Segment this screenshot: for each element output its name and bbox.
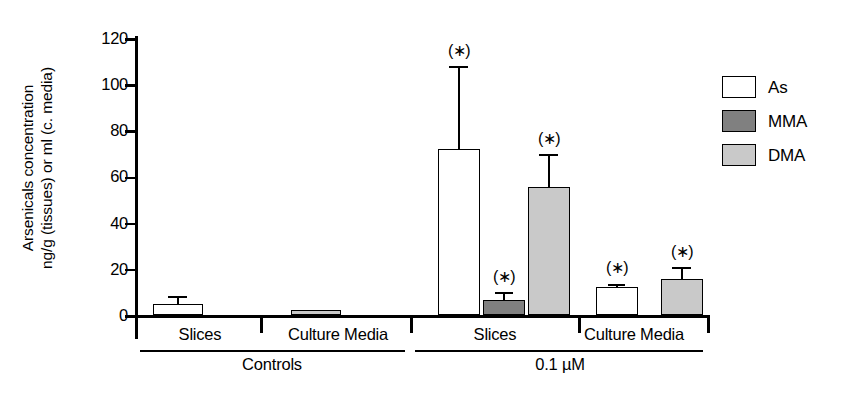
bar-treated-media-dma <box>661 279 703 315</box>
y-tick-label-0: 0 <box>82 307 128 324</box>
x-label-treated-slices: Slices <box>474 326 517 343</box>
y-tick-mark-40 <box>125 223 135 226</box>
x-label-controls-culture-media: Culture Media <box>288 326 388 343</box>
y-tick-label-20: 20 <box>82 261 128 278</box>
y-axis-line <box>135 36 138 339</box>
bar-treated-slices-mma <box>483 300 525 315</box>
group-label-dose: 0.1 µM <box>535 356 585 373</box>
legend-swatch-dma-icon <box>722 144 756 166</box>
y-tick-mark-60 <box>125 177 135 180</box>
axis-separator-ctrl-mid <box>260 317 263 333</box>
errorcap-treated-media-as <box>608 284 625 286</box>
axis-separator-left <box>135 317 138 333</box>
errorcap-treated-media-dma <box>672 267 691 269</box>
bar-controls-media-dma <box>291 310 341 315</box>
significance-marker-treated-slices-mma: (∗) <box>493 269 515 285</box>
group-label-controls: Controls <box>242 356 302 373</box>
y-tick-mark-0 <box>125 315 135 318</box>
errorcap-treated-slices-as <box>449 66 468 68</box>
bar-controls-slices-as <box>153 304 203 316</box>
y-tick-mark-120 <box>125 38 135 41</box>
errorcap-treated-slices-mma <box>495 292 513 294</box>
y-tick-label-60: 60 <box>82 168 128 185</box>
y-tick-mark-80 <box>125 130 135 133</box>
significance-marker-treated-slices-as: (∗) <box>448 43 470 59</box>
y-tick-label-100: 100 <box>82 76 128 93</box>
axis-separator-right <box>707 317 710 333</box>
legend-label-as: As <box>768 79 787 96</box>
group-underline-dose <box>415 350 703 352</box>
x-axis-line <box>135 315 710 318</box>
legend-item-mma: MMA <box>722 106 842 136</box>
y-tick-label-80: 80 <box>82 122 128 139</box>
significance-marker-treated-media-as: (∗) <box>606 260 628 276</box>
chart-legend: As MMA DMA <box>722 72 842 174</box>
bar-chart-figure: Arsenicals concentration ng/g (tissues) … <box>0 0 849 398</box>
y-tick-label-120: 120 <box>82 30 128 47</box>
y-tick-mark-20 <box>125 269 135 272</box>
bar-treated-media-as <box>596 287 638 315</box>
y-tick-mark-100 <box>125 84 135 87</box>
bar-treated-slices-dma <box>528 187 570 315</box>
y-axis-tick-labels: 120 100 80 60 40 20 0 <box>82 0 128 398</box>
legend-label-dma: DMA <box>768 147 805 164</box>
errorbar-treated-slices-as <box>458 68 460 149</box>
group-underline-controls <box>140 350 405 352</box>
legend-item-as: As <box>722 72 842 102</box>
y-axis-title-line-1: Arsenicals concentration <box>18 18 37 318</box>
errorcap-controls-slices-as <box>168 296 187 298</box>
y-axis-title-line-2: ng/g (tissues) or ml (c. media) <box>37 18 56 318</box>
legend-label-mma: MMA <box>768 113 807 130</box>
x-label-treated-culture-media: Culture Media <box>584 326 684 343</box>
errorbar-controls-slices-as <box>177 297 179 304</box>
legend-swatch-as-icon <box>722 76 756 98</box>
legend-swatch-mma-icon <box>722 110 756 132</box>
y-tick-label-40: 40 <box>82 215 128 232</box>
significance-marker-treated-slices-dma: (∗) <box>538 131 560 147</box>
significance-marker-treated-media-dma: (∗) <box>671 244 693 260</box>
errorbar-treated-media-dma <box>681 269 683 279</box>
errorbar-treated-slices-mma <box>503 294 505 300</box>
x-label-controls-slices: Slices <box>179 326 222 343</box>
axis-separator-groups <box>410 317 413 333</box>
plot-area: (∗) (∗) (∗) (∗) (∗) <box>135 38 710 315</box>
errorcap-treated-slices-dma <box>539 154 558 156</box>
bar-treated-slices-as <box>438 149 480 315</box>
axis-separator-trt-mid <box>578 317 581 333</box>
legend-item-dma: DMA <box>722 140 842 170</box>
errorbar-treated-slices-dma <box>548 156 550 187</box>
